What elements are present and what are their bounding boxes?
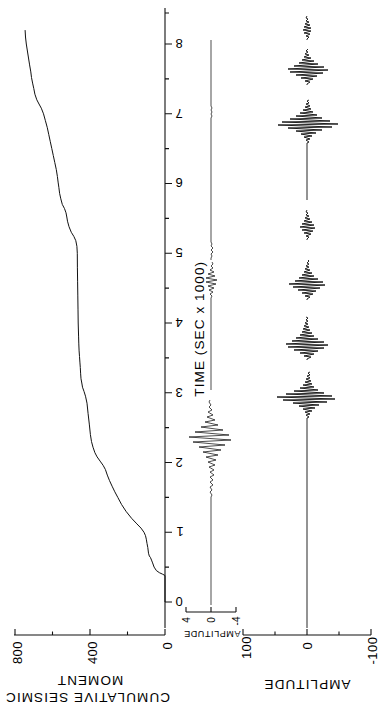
time-tick-5: 5 xyxy=(175,246,183,259)
seismogram-main-trace xyxy=(277,16,338,628)
inset-amplitude-tick-0: 0 xyxy=(207,613,217,627)
time-tick-7: 7 xyxy=(175,107,183,120)
time-tick-6: 6 xyxy=(175,176,183,189)
moment-tick-400: 400 xyxy=(86,632,99,674)
inset-amplitude-tick-4: 4 xyxy=(182,613,192,627)
time-tick-0: 0 xyxy=(175,595,183,608)
inset-amplitude-axis xyxy=(186,607,236,612)
moment-tick-800: 800 xyxy=(11,632,24,674)
cumulative-moment-curve xyxy=(25,30,165,602)
moment-axis-title-line2: MOMENT xyxy=(37,673,143,687)
time-tick-4: 4 xyxy=(175,316,183,329)
main-amplitude-tick-minus100: -100 xyxy=(366,631,379,671)
moment-axis-title-line1: CUMULATIVE SEISMIC xyxy=(10,690,170,704)
inset-amplitude-tick-minus4: -4 xyxy=(232,612,242,630)
moment-tick-0: 0 xyxy=(161,631,174,661)
time-axis xyxy=(165,8,172,628)
main-amplitude-tick-0: 0 xyxy=(301,633,314,659)
inset-amplitude-axis-title: AMPLITUDE xyxy=(181,629,243,638)
time-axis-title: TIME (SEC x 1000) xyxy=(193,249,207,409)
time-tick-2: 2 xyxy=(175,456,183,469)
time-tick-8: 8 xyxy=(175,37,183,50)
main-amplitude-axis-title: AMPLITUDE xyxy=(237,677,377,691)
time-tick-1: 1 xyxy=(176,525,184,538)
time-tick-3: 3 xyxy=(175,386,183,399)
